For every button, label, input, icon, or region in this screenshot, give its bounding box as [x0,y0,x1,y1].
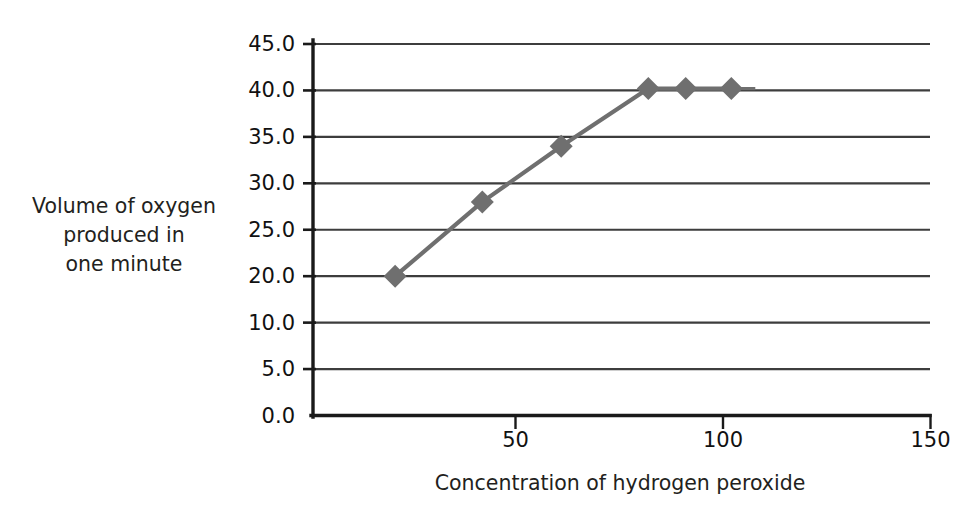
y-axis-tick-label: 35.0 [248,125,295,149]
y-axis-tick-labels: 45.040.035.030.025.020.010.05.00.0 [248,32,295,428]
x-axis-tick-label: 150 [910,428,950,452]
x-axis-title: Concentration of hydrogen peroxide [300,470,940,496]
axis-lines [311,40,930,417]
data-point-marker [720,77,743,100]
x-axis-tick-label: 50 [502,428,529,452]
x-axis-tick-label: 100 [703,428,743,452]
y-axis-tick-label: 25.0 [248,218,295,242]
line-chart-plot: 45.040.035.030.025.020.010.05.00.0 50100… [0,0,955,518]
y-axis-tick-label: 10.0 [248,311,295,335]
y-axis-tick-label: 45.0 [248,32,295,56]
y-axis-tick-label: 5.0 [262,357,295,381]
data-point-marker [674,77,697,100]
y-axis-tick-label: 20.0 [248,264,295,288]
x-axis-tick-labels: 50100150 [502,428,950,452]
y-axis-tick-label: 0.0 [262,404,295,428]
data-point-marker [637,77,660,100]
chart-figure: Volume of oxygen produced in one minute … [0,0,955,518]
y-axis-tick-label: 40.0 [248,78,295,102]
gridlines [313,44,930,369]
y-axis-tick-label: 30.0 [248,171,295,195]
